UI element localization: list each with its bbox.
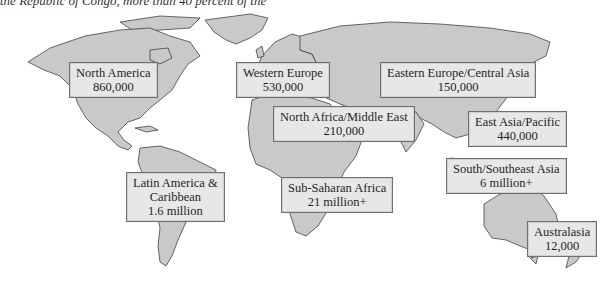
uk (256, 46, 264, 58)
region-name: Eastern Europe/Central Asia (387, 66, 529, 80)
region-value: 1.6 million (133, 204, 218, 218)
region-name: Sub-Saharan Africa (288, 181, 386, 195)
region-value: 21 million+ (288, 195, 386, 209)
region-name: East Asia/Pacific (475, 115, 560, 129)
label-western-europe: Western Europe 530,000 (236, 62, 330, 98)
region-name: Latin America & (133, 176, 218, 190)
region-name-line2: Caribbean (133, 190, 218, 204)
label-latin-america-caribbean: Latin America & Caribbean 1.6 million (126, 172, 225, 222)
caribbean (135, 126, 158, 132)
label-north-america: North America 860,000 (69, 62, 158, 98)
region-value: 150,000 (387, 80, 529, 94)
region-name: Australasia (534, 225, 590, 239)
label-eastern-europe-central-asia: Eastern Europe/Central Asia 150,000 (380, 62, 536, 98)
region-name: North America (76, 66, 151, 80)
region-value: 12,000 (534, 239, 590, 253)
region-value: 6 million+ (453, 176, 560, 190)
region-name: Western Europe (243, 66, 323, 80)
region-value: 860,000 (76, 80, 151, 94)
region-value: 210,000 (280, 124, 408, 138)
region-value: 530,000 (243, 80, 323, 94)
region-name: North Africa/Middle East (280, 110, 408, 124)
label-australasia: Australasia 12,000 (527, 221, 597, 257)
region-value: 440,000 (475, 129, 560, 143)
label-east-asia-pacific: East Asia/Pacific 440,000 (468, 111, 567, 147)
tasmania (530, 256, 538, 264)
label-sub-saharan-africa: Sub-Saharan Africa 21 million+ (281, 177, 393, 213)
label-north-africa-middle-east: North Africa/Middle East 210,000 (273, 106, 415, 142)
label-south-southeast-asia: South/Southeast Asia 6 million+ (446, 158, 567, 194)
region-name: South/Southeast Asia (453, 162, 560, 176)
greenland (205, 14, 268, 44)
